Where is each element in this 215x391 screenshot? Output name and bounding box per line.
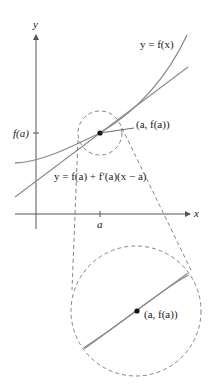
x-tick-label: a xyxy=(97,218,103,230)
point-label: (a, f(a)) xyxy=(136,118,170,131)
tangent-label: y = f(a) + f′(a)(x − a) xyxy=(54,170,147,183)
linear-approximation-figure: y x f(a) a (a, f(a)) y = f(x) y = f(a) +… xyxy=(0,0,215,391)
y-axis-label: y xyxy=(32,18,38,30)
projection-line-right xyxy=(122,128,192,272)
x-axis-label: x xyxy=(193,207,199,219)
magnified-point-label: (a, f(a)) xyxy=(144,308,178,321)
function-curve xyxy=(15,35,187,163)
curve-label: y = f(x) xyxy=(140,38,174,51)
magnified-tangent-point xyxy=(134,308,139,313)
projection-line-left xyxy=(72,140,78,290)
y-tick-label: f(a) xyxy=(13,127,29,140)
